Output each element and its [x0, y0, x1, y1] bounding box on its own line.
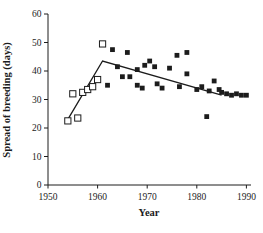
x-tick-label: 1960	[88, 192, 107, 202]
filled-square-marker	[135, 83, 140, 88]
filled-square-marker	[155, 81, 160, 86]
filled-square-marker	[224, 91, 229, 96]
filled-square-marker	[199, 84, 204, 89]
filled-square-marker	[207, 89, 212, 94]
x-tick-label: 1980	[187, 192, 206, 202]
filled-square-marker	[135, 67, 140, 72]
filled-square-marker	[204, 114, 209, 119]
filled-square-marker	[167, 66, 172, 71]
y-tick-label: 10	[32, 152, 42, 162]
open-square-marker	[90, 84, 96, 90]
open-square-marker	[95, 76, 101, 82]
open-square-marker	[65, 118, 71, 124]
filled-square-marker	[147, 59, 152, 64]
y-tick-label: 30	[32, 95, 42, 105]
y-tick-label: 0	[37, 180, 42, 190]
filled-square-marker	[194, 87, 199, 92]
filled-square-marker	[229, 93, 234, 98]
filled-square-marker	[177, 84, 182, 89]
y-tick-label: 20	[32, 123, 42, 133]
filled-square-marker	[219, 90, 224, 95]
filled-square-marker	[234, 91, 239, 96]
scatter-plot: 010203040506019501960197019801990 Spread…	[0, 0, 263, 233]
filled-square-marker	[110, 47, 115, 52]
y-tick-label: 60	[32, 9, 42, 19]
filled-square-marker	[152, 64, 157, 69]
filled-square-marker	[184, 50, 189, 55]
filled-square-marker	[212, 79, 217, 84]
filled-square-marker	[125, 50, 130, 55]
filled-square-marker	[142, 63, 147, 68]
breeding-spread-figure: 010203040506019501960197019801990 Spread…	[0, 0, 263, 233]
axes: 010203040506019501960197019801990	[32, 9, 256, 201]
filled-square-marker	[184, 71, 189, 76]
filled-square-marker	[127, 74, 132, 79]
x-tick-label: 1950	[39, 192, 58, 202]
open-square-marker	[99, 41, 105, 47]
x-tick-label: 1970	[138, 192, 157, 202]
open-square-marker	[70, 91, 76, 97]
filled-square-marker	[239, 93, 244, 98]
y-axis-label: Spread of breeding (days)	[1, 42, 13, 158]
filled-square-marker	[120, 74, 125, 79]
y-tick-label: 50	[32, 38, 42, 48]
x-axis-label: Year	[139, 207, 160, 218]
filled-square-marker	[140, 86, 145, 91]
open-square-marker	[75, 115, 81, 121]
filled-square-marker	[175, 53, 180, 58]
filled-square-marker	[160, 86, 165, 91]
y-tick-label: 40	[32, 66, 42, 76]
filled-square-marker	[244, 93, 249, 98]
filled-square-marker	[115, 64, 120, 69]
data-points	[65, 41, 249, 124]
x-tick-label: 1990	[237, 192, 256, 202]
filled-square-marker	[105, 83, 110, 88]
